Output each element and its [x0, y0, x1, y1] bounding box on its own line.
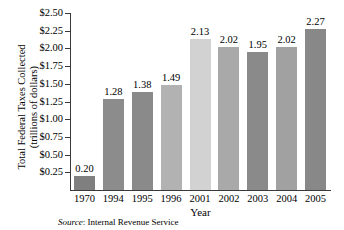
bar [190, 39, 211, 190]
bar [305, 29, 326, 190]
y-axis-title-line-2: (trillions of dollars) [28, 14, 40, 200]
y-axis-title-line-1: Total Federal Taxes Collected [16, 14, 28, 200]
bar [218, 47, 239, 190]
y-axis-tick-label: $2.25 [39, 26, 63, 37]
source-note: Source: Internal Revenue Service [58, 217, 178, 227]
bar-value-label: 2.02 [267, 35, 307, 46]
y-axis-tick-label: $1.50 [39, 79, 63, 90]
y-axis-tick-label: $2.50 [39, 8, 63, 19]
y-axis-tick-label: $0.50 [39, 150, 63, 161]
source-label: Source [58, 217, 83, 227]
bar [132, 92, 153, 190]
bar [247, 52, 268, 190]
y-axis-tick-label: $1.75 [39, 61, 63, 72]
x-axis-tick-label: 2005 [296, 193, 336, 204]
bar [161, 85, 182, 191]
source-text: Internal Revenue Service [87, 217, 178, 227]
bar [103, 99, 124, 190]
bar [276, 47, 297, 190]
bar [74, 176, 95, 190]
y-axis-tick-label: $0.25 [39, 167, 63, 178]
bar-value-label: 1.49 [151, 73, 191, 84]
y-axis-tick-label: $1.00 [39, 114, 63, 125]
y-axis-tick-label: $1.25 [39, 97, 63, 108]
bar-value-label: 2.27 [296, 17, 336, 28]
y-axis-tick-label: $2.00 [39, 43, 63, 54]
bar-chart-figure: Total Federal Taxes Collected (trillions… [0, 0, 344, 230]
x-axis-line [70, 190, 331, 191]
bar-value-label: 0.20 [64, 164, 104, 175]
y-axis-tick-label: $0.75 [39, 132, 63, 143]
